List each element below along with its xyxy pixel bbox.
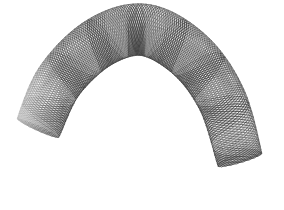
stent-mesh-graphic [0, 0, 284, 210]
stent-illustration [0, 0, 284, 210]
left-fade-overlay [0, 0, 284, 210]
